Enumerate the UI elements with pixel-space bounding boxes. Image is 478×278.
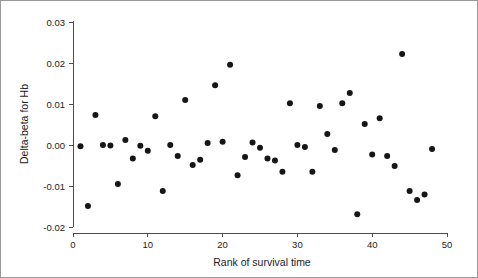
data-point: [92, 112, 98, 118]
data-point: [100, 142, 106, 148]
y-tick-label: 0.02: [47, 58, 66, 69]
y-tick-label: 0.00: [47, 140, 66, 151]
data-point: [115, 181, 121, 187]
data-point: [197, 157, 203, 163]
data-point: [272, 158, 278, 164]
data-point: [257, 145, 263, 151]
data-point: [152, 113, 158, 119]
data-point: [279, 169, 285, 175]
data-point: [205, 140, 211, 146]
data-point: [407, 188, 413, 194]
data-point: [422, 192, 428, 198]
data-point: [287, 100, 293, 106]
y-axis-title: Delta-beta for Hb: [18, 84, 30, 164]
data-point: [377, 115, 383, 121]
data-point: [190, 162, 196, 168]
data-point: [317, 103, 323, 109]
data-point: [309, 169, 315, 175]
data-point: [182, 97, 188, 103]
data-point: [302, 144, 308, 150]
figure-border: [1, 1, 478, 278]
data-point: [235, 172, 241, 178]
y-tick-label: 0.03: [47, 17, 66, 28]
data-point: [384, 153, 390, 159]
data-point: [175, 153, 181, 159]
data-point: [294, 142, 300, 148]
data-point: [324, 131, 330, 137]
data-point: [107, 142, 113, 148]
data-point: [354, 211, 360, 217]
plot-canvas: -0.02-0.010.000.010.020.03 01020304050 D…: [0, 0, 478, 278]
y-tick-label: -0.02: [43, 222, 65, 233]
data-point: [167, 142, 173, 148]
scatter-chart-figure: -0.02-0.010.000.010.020.03 01020304050 D…: [0, 0, 478, 278]
data-point: [399, 51, 405, 57]
x-axis-title: Rank of survival time: [213, 256, 311, 268]
data-point: [242, 154, 248, 160]
x-axis: 01020304050: [70, 233, 452, 250]
data-point: [145, 148, 151, 154]
x-tick-label: 30: [292, 239, 303, 250]
data-point: [220, 139, 226, 145]
y-axis: -0.02-0.010.000.010.020.03: [43, 17, 73, 233]
data-point: [77, 143, 83, 149]
data-point: [137, 143, 143, 149]
data-point: [85, 203, 91, 209]
data-point: [122, 137, 128, 143]
x-tick-label: 0: [70, 239, 75, 250]
data-point: [362, 121, 368, 127]
data-point: [227, 62, 233, 68]
data-point: [347, 90, 353, 96]
x-tick-label: 40: [367, 239, 378, 250]
data-points-layer: [77, 51, 435, 217]
x-tick-label: 20: [217, 239, 228, 250]
data-point: [130, 156, 136, 162]
data-point: [250, 140, 256, 146]
x-tick-label: 50: [442, 239, 453, 250]
data-point: [339, 100, 345, 106]
data-point: [414, 197, 420, 203]
data-point: [392, 163, 398, 169]
data-point: [332, 147, 338, 153]
x-tick-label: 10: [143, 239, 154, 250]
y-tick-label: -0.01: [43, 181, 65, 192]
data-point: [212, 82, 218, 88]
data-point: [429, 146, 435, 152]
data-point: [160, 188, 166, 194]
data-point: [369, 151, 375, 157]
y-tick-label: 0.01: [47, 99, 66, 110]
data-point: [264, 156, 270, 162]
